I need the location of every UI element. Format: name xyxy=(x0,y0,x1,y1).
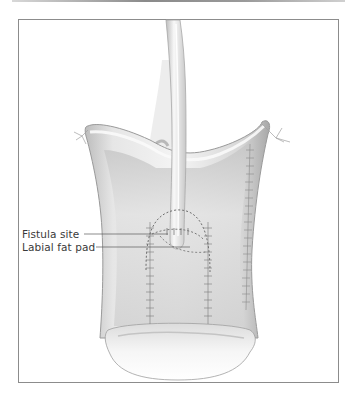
label-fistula-site: Fistula site xyxy=(22,228,79,240)
surgical-illustration xyxy=(0,0,357,401)
label-labial-fat-pad: Labial fat pad xyxy=(22,241,95,253)
introitus xyxy=(105,323,255,380)
